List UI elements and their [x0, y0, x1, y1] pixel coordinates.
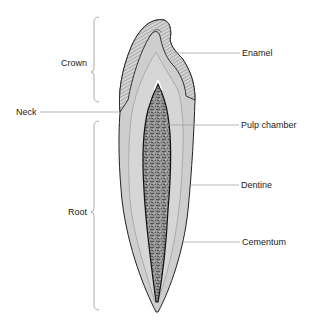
label-crown: Crown [61, 58, 87, 68]
root-bracket [91, 121, 99, 310]
label-dentine: Dentine [241, 180, 272, 190]
label-pulp-chamber: Pulp chamber [241, 120, 297, 130]
label-neck: Neck [16, 107, 37, 117]
crown-bracket [91, 17, 99, 102]
label-root: Root [68, 207, 87, 217]
label-enamel: Enamel [242, 48, 273, 58]
label-cementum: Cementum [242, 237, 286, 247]
